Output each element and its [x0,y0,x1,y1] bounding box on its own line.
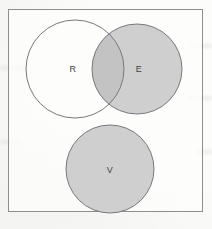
venn-label-e: E [136,64,142,74]
venn-label-r: R [70,64,77,74]
page-background: R E V [0,0,212,229]
figure-frame [8,9,203,212]
figure-caption [30,219,182,229]
venn-label-v: V [107,165,113,175]
